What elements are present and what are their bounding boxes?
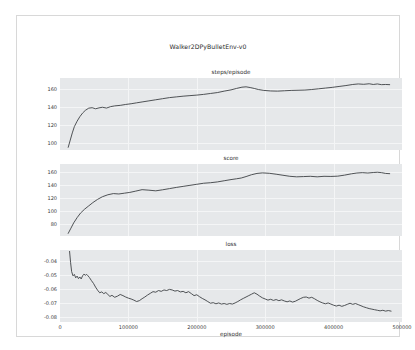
subplot-title-loss: loss xyxy=(60,241,402,247)
ytick-label: -0.04 xyxy=(44,258,57,264)
line-score xyxy=(60,164,402,236)
xtick-label: 0 xyxy=(58,324,61,330)
ytick-label: 120 xyxy=(47,122,57,128)
ytick-label: 140 xyxy=(47,182,57,188)
subplot-steps-per-episode: steps/episode 100120140160 xyxy=(60,78,402,150)
ytick-label: 160 xyxy=(47,86,57,92)
line-loss xyxy=(60,250,402,322)
ytick-label: -0.06 xyxy=(44,286,57,292)
axes-steps-per-episode xyxy=(60,78,402,150)
ytick-label: -0.05 xyxy=(44,272,57,278)
ytick-label: 120 xyxy=(47,195,57,201)
subplot-loss: loss -0.04-0.05-0.06-0.07-0.08 010000020… xyxy=(60,250,402,322)
xaxis-label-episode: episode xyxy=(60,331,402,337)
axes-loss xyxy=(60,250,402,322)
ytick-label: 160 xyxy=(47,169,57,175)
xtick-label: 100000 xyxy=(119,324,138,330)
subplot-score: score 80100120140160 xyxy=(60,164,402,236)
ytick-label: 100 xyxy=(47,140,57,146)
matplotlib-figure: Walker2DPyBulletEnv-v0 steps/episode 100… xyxy=(0,0,415,350)
figure-title: Walker2DPyBulletEnv-v0 xyxy=(17,43,399,50)
axes-score xyxy=(60,164,402,236)
ytick-label: 100 xyxy=(47,208,57,214)
xtick-label: 400000 xyxy=(324,324,343,330)
series-polyline xyxy=(68,84,389,148)
series-polyline xyxy=(70,251,391,311)
ytick-label: 80 xyxy=(51,221,57,227)
xtick-label: 500000 xyxy=(392,324,411,330)
line-steps-per-episode xyxy=(60,78,402,150)
subplot-title-steps-per-episode: steps/episode xyxy=(60,69,402,75)
figure-frame: Walker2DPyBulletEnv-v0 steps/episode 100… xyxy=(16,15,400,337)
xtick-label: 300000 xyxy=(256,324,275,330)
subplot-title-score: score xyxy=(60,155,402,161)
ytick-label: 140 xyxy=(47,104,57,110)
ytick-label: -0.07 xyxy=(44,300,57,306)
ytick-label: -0.08 xyxy=(44,314,57,320)
series-polyline xyxy=(68,172,389,233)
xtick-label: 200000 xyxy=(187,324,206,330)
